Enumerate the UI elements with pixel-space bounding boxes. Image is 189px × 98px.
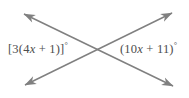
degree-symbol-right: ° bbox=[174, 40, 178, 50]
angle-label-left-prefix: [3(4 bbox=[8, 42, 30, 56]
angle-label-right-prefix: (10 bbox=[120, 42, 137, 56]
angle-diagram-figure: [3(4x + 1)]° (10x + 11)° bbox=[0, 0, 189, 98]
degree-symbol-left: ° bbox=[64, 40, 68, 50]
angle-label-right: (10x + 11)° bbox=[120, 43, 177, 56]
angle-label-right-suffix: + 11) bbox=[143, 42, 174, 56]
angle-label-left: [3(4x + 1)]° bbox=[8, 43, 68, 56]
angle-label-left-suffix: + 1)] bbox=[35, 42, 64, 56]
